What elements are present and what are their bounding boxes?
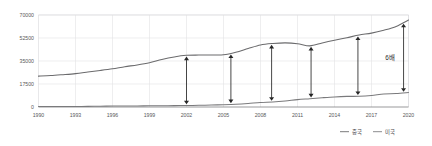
arrow-head-up: [184, 57, 189, 61]
x-tick-label: 1996: [107, 112, 119, 118]
y-tick-label: 70000: [20, 12, 35, 18]
gap-arrow: [401, 24, 406, 92]
x-tick-label: 2017: [366, 112, 378, 118]
x-tick-label: 2008: [255, 112, 267, 118]
arrow-head-up: [401, 24, 406, 28]
x-tick-label: 1993: [70, 112, 82, 118]
x-tick-label: 2005: [218, 112, 230, 118]
x-tick-label: 2020: [403, 112, 415, 118]
gap-arrow: [355, 36, 360, 95]
arrow-head-down: [355, 91, 360, 95]
gap-arrow: [309, 47, 314, 98]
gridlines: [39, 15, 409, 107]
x-tick-label: 1999: [144, 112, 156, 118]
gap-annotation-labels: 6배: [385, 53, 395, 62]
chart-legend: 중국미국: [340, 128, 395, 136]
y-tick-label: 52500: [20, 35, 35, 41]
y-axis-tick-labels: 017500350005250070000: [20, 12, 35, 110]
legend-item[interactable]: 중국: [340, 129, 362, 136]
arrow-head-up: [309, 47, 314, 51]
gdp-comparison-chart: 017500350005250070000 199019931996199920…: [0, 0, 432, 146]
y-tick-label: 0: [31, 104, 34, 110]
arrow-head-up: [269, 45, 274, 49]
arrow-head-down: [309, 94, 314, 98]
arrow-head-down: [228, 100, 233, 104]
arrow-head-down: [401, 88, 406, 92]
y-tick-label: 35000: [20, 58, 35, 64]
legend-item[interactable]: 미국: [373, 128, 395, 136]
x-tick-label: 2014: [329, 112, 341, 118]
arrow-head-down: [184, 101, 189, 105]
gap-multiplier-label: 6배: [385, 53, 395, 62]
legend-label: 미국: [385, 128, 395, 136]
arrow-head-down: [269, 97, 274, 101]
x-tick-label: 2011: [292, 112, 303, 118]
arrow-head-up: [228, 55, 233, 59]
gap-arrow: [269, 45, 274, 101]
y-tick-label: 17500: [20, 81, 35, 87]
legend-label: 중국: [352, 129, 362, 136]
x-axis-tick-labels: 1990199319961999200220052008201120142017…: [33, 112, 415, 118]
x-tick-label: 2002: [181, 112, 193, 118]
gap-arrow: [228, 55, 233, 104]
gap-arrows: [184, 24, 406, 105]
gap-arrow: [184, 57, 189, 105]
x-tick-label: 1990: [33, 112, 45, 118]
chart-canvas: 017500350005250070000 199019931996199920…: [0, 0, 432, 146]
